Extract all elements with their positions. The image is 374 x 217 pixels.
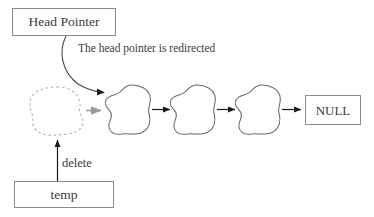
node-2-shape (170, 85, 215, 134)
node-3-shape (235, 85, 280, 134)
delete-annotation-label: delete (62, 157, 92, 170)
head-pointer-box-label: Head Pointer (12, 8, 116, 36)
node-deleted-shape (30, 87, 83, 135)
redirect-annotation-label: The head pointer is redirected (78, 43, 215, 55)
null-box-label: NULL (305, 95, 361, 125)
temp-box-label: temp (14, 181, 114, 208)
diagram-canvas: Head Pointer NULL temp The head pointer … (0, 0, 374, 217)
node-1-shape (105, 85, 150, 134)
